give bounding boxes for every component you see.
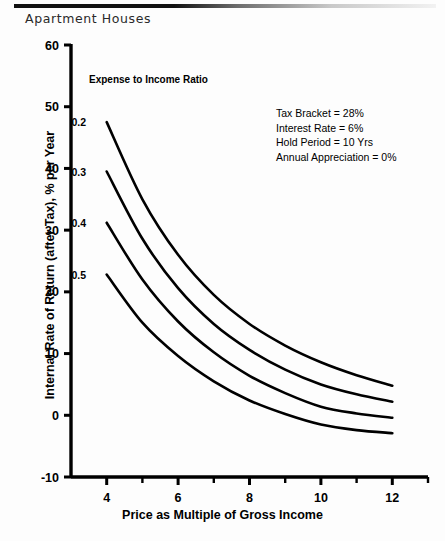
series-line-0.3 <box>107 172 393 402</box>
series-label-0.2: 0.2 <box>71 116 86 128</box>
x-axis-tick-labels: 4681012 <box>103 491 399 505</box>
annotation-line: Annual Appreciation = 0% <box>276 150 397 165</box>
annotation-line: Interest Rate = 6% <box>276 121 397 136</box>
y-tick-label: 0 <box>52 409 59 423</box>
y-tick-label: 60 <box>45 39 59 53</box>
x-tick-label: 6 <box>175 491 182 505</box>
series-label-0.5: 0.5 <box>71 269 86 281</box>
annotation-line: Hold Period = 10 Yrs <box>276 135 397 150</box>
legend-title: Expense to Income Ratio <box>89 74 208 85</box>
annotation-block: Tax Bracket = 28% Interest Rate = 6% Hol… <box>276 106 397 164</box>
annotation-line: Tax Bracket = 28% <box>276 106 397 121</box>
x-tick-label: 8 <box>246 491 253 505</box>
chart-page: Apartment Houses Internal Rate of Return… <box>0 0 445 541</box>
y-tick-label: 10 <box>45 347 59 361</box>
y-tick-label: -10 <box>41 471 59 485</box>
chart-canvas: -100102030405060 4681012 0.20.30.40.5 <box>0 0 445 541</box>
series-label-0.3: 0.3 <box>71 166 86 178</box>
data-series-lines <box>107 122 393 433</box>
series-labels: 0.20.30.40.5 <box>71 116 86 281</box>
x-tick-label: 10 <box>314 491 328 505</box>
series-line-0.5 <box>107 275 393 434</box>
x-tick-label: 12 <box>385 491 399 505</box>
x-tick-label: 4 <box>103 491 110 505</box>
y-tick-label: 20 <box>45 285 59 299</box>
y-tick-label: 30 <box>45 224 59 238</box>
y-axis-tick-labels: -100102030405060 <box>41 39 59 485</box>
series-label-0.4: 0.4 <box>71 217 86 229</box>
y-tick-label: 40 <box>45 162 59 176</box>
y-tick-label: 50 <box>45 100 59 114</box>
x-axis-title: Price as Multiple of Gross Income <box>0 508 445 522</box>
